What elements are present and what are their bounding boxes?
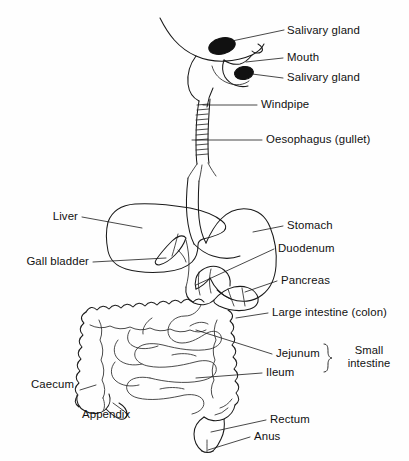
label-small-intestine-line2: intestine: [334, 357, 404, 370]
leader-ileum: [196, 373, 262, 378]
label-salivary-gland-upper: Salivary gland: [287, 24, 360, 37]
pancreas-texture-line: [228, 288, 245, 306]
label-large-intestine: Large intestine (colon): [272, 306, 387, 319]
label-salivary-gland-lower: Salivary gland: [287, 71, 360, 84]
salivary-gland-lower-icon: [234, 65, 255, 81]
leader-salivary-gland-lower: [252, 74, 283, 78]
anatomy-drawing: [0, 0, 409, 461]
ileum-coil-left: [111, 362, 139, 386]
cheek-outline: [188, 56, 199, 101]
label-ileum: Ileum: [266, 366, 294, 379]
leader-salivary-gland-upper: [232, 30, 284, 41]
rectum-right-wall: [213, 419, 224, 451]
rectum-anus-group: [194, 417, 224, 453]
transverse-colon-top: [86, 299, 204, 312]
label-windpipe: Windpipe: [261, 98, 309, 111]
label-appendix: Appendix: [82, 408, 130, 421]
leader-caecum: [80, 385, 96, 390]
ascending-colon-inner: [99, 320, 105, 398]
salivary-gland-upper-icon: [207, 35, 237, 57]
digestive-system-diagram: Salivary gland Mouth Salivary gland Wind…: [0, 0, 409, 461]
head-profile-outline: [160, 18, 264, 61]
leader-mouth: [246, 58, 283, 62]
label-oesophagus: Oesophagus (gullet): [266, 133, 370, 146]
small-intestine-extra-2: [190, 322, 208, 326]
small-intestine-extra-4: [160, 388, 184, 390]
sigmoid-haustra: [215, 399, 232, 415]
gall-bladder-outline: [155, 236, 186, 265]
label-mouth: Mouth: [287, 51, 319, 64]
ascending-colon-outer: [75, 312, 86, 407]
label-anus: Anus: [254, 430, 280, 443]
leader-liver: [82, 217, 142, 228]
duodenum-inner-line-2: [210, 269, 212, 293]
leader-lines: [80, 30, 332, 450]
label-small-intestine: Small intestine: [334, 344, 404, 370]
oesophagus-left-wall: [186, 178, 194, 244]
stomach-outline: [206, 209, 276, 301]
stomach-group: [194, 209, 276, 301]
stomach-lesser-curvature: [194, 244, 240, 258]
gall-bladder-group: [155, 236, 189, 287]
anus-opening: [202, 451, 213, 453]
small-intestine-extra-3: [172, 354, 196, 356]
rectum-outline: [194, 417, 204, 451]
leader-anus: [208, 437, 250, 450]
leader-jejunum: [196, 330, 272, 354]
cystic-duct: [178, 250, 186, 262]
label-pancreas: Pancreas: [281, 274, 330, 287]
small-intestine-group: [111, 305, 221, 414]
duodenum-lower-loop: [186, 287, 214, 305]
label-rectum: Rectum: [270, 413, 310, 426]
label-gall-bladder: Gall bladder: [0, 255, 89, 268]
leader-large-intestine: [236, 313, 268, 318]
label-small-intestine-line1: Small: [334, 344, 404, 357]
ileum-coils: [127, 377, 204, 414]
label-liver: Liver: [0, 210, 78, 223]
label-jejunum: Jejunum: [276, 347, 320, 360]
label-stomach: Stomach: [287, 219, 333, 232]
descending-colon-outer: [228, 310, 239, 405]
transverse-colon-bottom: [90, 325, 206, 332]
jejunum-coils: [135, 305, 222, 382]
sigmoid-colon-outline: [204, 405, 235, 421]
label-caecum: Caecum: [0, 378, 74, 391]
small-intestine-extra-1: [143, 318, 152, 334]
leader-pancreas: [245, 281, 277, 292]
large-intestine-group: [75, 299, 239, 421]
curly-brace-icon: [324, 344, 332, 372]
head-outline-group: [160, 18, 264, 107]
label-duodenum: Duodenum: [278, 242, 335, 255]
bronchi: [188, 163, 216, 181]
bile-duct: [186, 240, 189, 287]
leader-stomach: [253, 226, 283, 232]
